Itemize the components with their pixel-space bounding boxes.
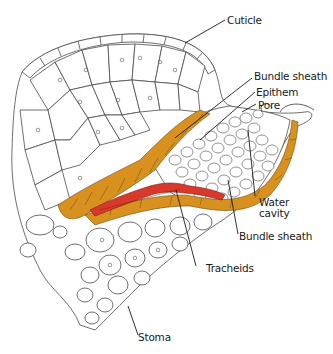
label-stoma: Stoma [138,332,171,343]
label-tracheids: Tracheids [206,263,254,274]
label-cuticle: Cuticle [227,15,262,26]
label-epithem: Epithem [256,87,298,98]
hydathode-diagram [0,0,333,354]
label-bundle-sheath-bottom: Bundle sheath [239,231,312,242]
label-bundle-sheath-top: Bundle sheath [254,71,327,82]
label-pore: Pore [258,100,280,111]
label-water-cavity: Water cavity [259,197,289,219]
